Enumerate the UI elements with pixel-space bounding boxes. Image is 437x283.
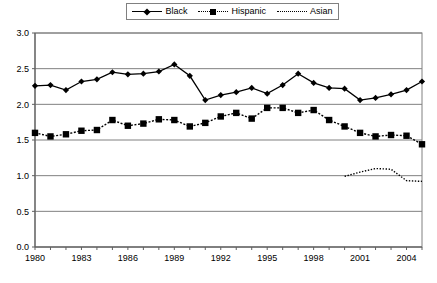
data-point-hispanic [187, 123, 193, 129]
data-point-hispanic [63, 131, 69, 137]
x-tick-label: 1980 [25, 253, 45, 263]
data-point-hispanic [388, 132, 394, 138]
data-point-hispanic [47, 133, 53, 139]
data-point-hispanic [295, 110, 301, 116]
y-tick-label: 2.0 [16, 100, 29, 110]
data-point-hispanic [419, 141, 425, 147]
data-point-hispanic [94, 127, 100, 133]
data-point-hispanic [249, 115, 255, 121]
data-point-hispanic [171, 117, 177, 123]
y-tick-label: 0.5 [16, 207, 29, 217]
data-point-hispanic [78, 128, 84, 134]
y-tick-label: 2.5 [16, 64, 29, 74]
data-point-hispanic [279, 105, 285, 111]
data-point-hispanic [326, 117, 332, 123]
plot-area: 0.00.51.01.52.02.53.01980198319861989199… [0, 0, 437, 283]
x-tick-label: 1992 [211, 253, 231, 263]
y-tick-label: 0.0 [16, 242, 29, 252]
data-point-hispanic [218, 113, 224, 119]
data-point-hispanic [202, 120, 208, 126]
data-point-hispanic [264, 105, 270, 111]
x-tick-label: 1986 [118, 253, 138, 263]
data-point-hispanic [357, 130, 363, 136]
data-point-hispanic [372, 133, 378, 139]
x-tick-label: 1995 [257, 253, 277, 263]
data-point-hispanic [32, 130, 38, 136]
data-point-hispanic [233, 110, 239, 116]
data-point-hispanic [156, 116, 162, 122]
y-tick-label: 1.0 [16, 171, 29, 181]
chart-container: Black Hispanic Asian 0.00.51.01.52.02.53… [0, 0, 437, 283]
data-point-hispanic [310, 107, 316, 113]
data-point-hispanic [403, 133, 409, 139]
data-point-hispanic [341, 123, 347, 129]
x-tick-label: 1998 [304, 253, 324, 263]
x-tick-label: 1983 [71, 253, 91, 263]
y-tick-label: 3.0 [16, 28, 29, 38]
data-point-hispanic [109, 117, 115, 123]
x-tick-label: 1989 [164, 253, 184, 263]
y-tick-label: 1.5 [16, 135, 29, 145]
data-point-hispanic [140, 120, 146, 126]
x-tick-label: 2004 [397, 253, 417, 263]
chart-svg: 0.00.51.01.52.02.53.01980198319861989199… [0, 0, 437, 283]
x-tick-label: 2001 [350, 253, 370, 263]
data-point-hispanic [125, 123, 131, 129]
